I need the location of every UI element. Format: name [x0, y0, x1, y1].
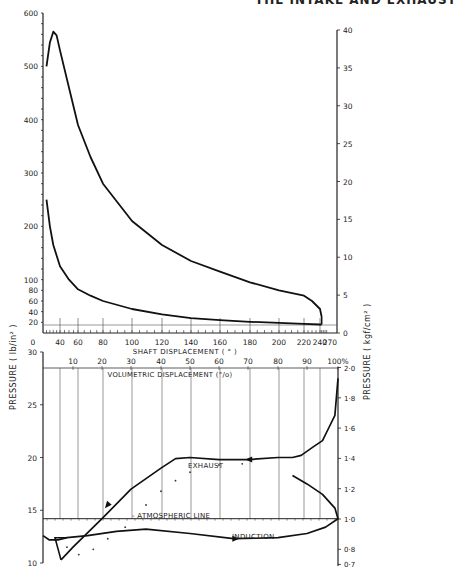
y-right-axis-title: PRESSURE ( kgf/cm² )	[363, 303, 372, 400]
reference-point	[124, 526, 126, 528]
x-tick-label: 270	[323, 338, 338, 347]
y-right-tick-label: 0	[343, 329, 348, 338]
y-right-tick-label: 5	[343, 291, 348, 300]
bottom-y-right-tick-label: 1·0	[344, 516, 355, 524]
exhaust-label: EXHAUST	[188, 462, 224, 470]
bottom-chart: 10152025300·70·81·01·21·41·61·82·0102030…	[27, 348, 355, 569]
x-tick-label: 160	[213, 338, 228, 347]
volumetric-tick-label: 90	[302, 357, 312, 366]
bottom-y-right-tick-label: 0·8	[344, 546, 355, 554]
reference-point	[160, 490, 162, 492]
compression-curve	[47, 200, 322, 325]
bottom-y-right-tick-label: 1·8	[344, 395, 355, 403]
volumetric-axis-title: VOLUMETRIC DISPLACEMENT (°/o)	[108, 371, 233, 379]
x-tick-label: 140	[184, 338, 199, 347]
bottom-y-tick-label: 30	[27, 348, 37, 357]
x-tick-label: 200	[272, 338, 287, 347]
volumetric-tick-label: 50	[185, 357, 195, 366]
bottom-y-right-tick-label: 1·4	[344, 455, 356, 463]
induction-label: INDUCTION	[232, 533, 275, 541]
x-tick-label: 180	[243, 338, 258, 347]
top-chart: 20406080100200300400500600PRESSURE ( lb/…	[9, 9, 372, 410]
y-tick-label: 20	[28, 318, 38, 327]
x-tick-label: 100	[125, 338, 140, 347]
bottom-y-tick-label: 10	[27, 559, 37, 568]
y-axis-title: PRESSURE ( lb/in² )	[9, 324, 18, 410]
reference-point	[92, 548, 94, 550]
volumetric-tick-label: 30	[126, 357, 136, 366]
volumetric-tick-label: 20	[97, 357, 107, 366]
y-tick-label: 400	[24, 116, 39, 125]
y-tick-label: 500	[24, 62, 39, 71]
x-tick-label: 0	[31, 338, 36, 347]
bottom-y-tick-label: 15	[27, 506, 37, 515]
exhaust-down-arrow	[103, 501, 112, 510]
bottom-y-right-tick-label: 1·6	[344, 425, 356, 433]
y-tick-label: 40	[28, 308, 38, 317]
x-tick-label: 40	[55, 338, 65, 347]
y-right-tick-label: 30	[343, 102, 353, 111]
reference-point	[241, 463, 243, 465]
atmospheric-line-label: - ATMOSPHERIC LINE	[132, 512, 210, 520]
reference-point	[78, 554, 80, 556]
reference-point	[107, 538, 109, 540]
x-axis-title: SHAFT DISPLACEMENT ( ° )	[133, 348, 237, 356]
y-tick-label: 200	[24, 222, 39, 231]
volumetric-tick-label: 70	[243, 357, 253, 366]
bottom-y-tick-label: 20	[27, 454, 37, 463]
reference-point	[66, 546, 68, 548]
bottom-y-tick-label: 25	[27, 401, 37, 410]
x-tick-label: 120	[155, 338, 170, 347]
volumetric-tick-label: 60	[214, 357, 224, 366]
y-tick-label: 300	[24, 169, 39, 178]
expansion-curve	[47, 32, 322, 317]
x-tick-label: 80	[98, 338, 108, 347]
y-tick-label: 80	[28, 286, 38, 295]
y-right-tick-label: 15	[343, 215, 353, 224]
y-right-tick-label: 25	[343, 140, 353, 149]
y-right-tick-label: 10	[343, 253, 353, 262]
y-right-tick-label: 35	[343, 64, 353, 73]
y-tick-label: 600	[24, 9, 39, 18]
x-tick-label: 220	[297, 338, 312, 347]
y-right-tick-label: 40	[343, 26, 353, 35]
reference-point	[175, 480, 177, 482]
exhaust-arrow	[245, 457, 252, 463]
y-tick-label: 60	[28, 297, 38, 306]
y-tick-label: 100	[24, 276, 39, 285]
volumetric-tick-label: 10	[68, 357, 78, 366]
volumetric-tick-label: 100%	[327, 357, 348, 366]
volumetric-tick-label: 80	[273, 357, 283, 366]
induction-curve	[43, 475, 338, 539]
reference-point	[189, 471, 191, 473]
bottom-y-right-tick-label: 1·2	[344, 486, 355, 494]
reference-point	[145, 504, 147, 506]
x-tick-label: 60	[73, 338, 83, 347]
y-right-tick-label: 20	[343, 178, 353, 187]
volumetric-tick-label: 40	[156, 357, 166, 366]
bottom-y-right-tick-label: 0·7	[344, 561, 355, 569]
